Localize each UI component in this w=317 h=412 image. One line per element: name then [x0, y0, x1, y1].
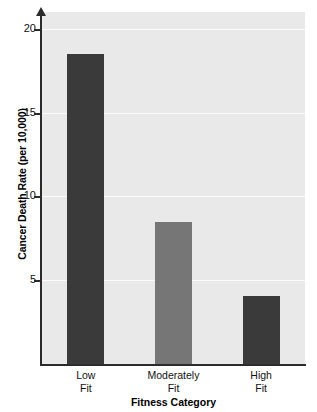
- x-axis-title: Fitness Category: [42, 396, 305, 408]
- x-axis-tick-label-line: Fit: [42, 382, 130, 395]
- x-axis-tick-label-line: Moderately: [130, 369, 218, 382]
- y-axis-arrow-icon: [36, 7, 46, 16]
- x-axis-tick-label-line: Fit: [130, 382, 218, 395]
- gridline: [42, 29, 305, 30]
- bar-chart-figure: 5101520 Cancer Death Rate (per 10,000) L…: [0, 0, 317, 412]
- bar: [155, 222, 192, 364]
- x-axis-tick-label-line: Low: [42, 369, 130, 382]
- y-axis-tick-label: 20: [14, 23, 36, 34]
- bar: [67, 54, 104, 364]
- x-axis-tick-label: ModeratelyFit: [130, 369, 218, 394]
- y-axis-tick-mark: [34, 29, 41, 31]
- bar: [243, 296, 280, 364]
- y-axis-line: [40, 14, 42, 366]
- x-axis-tick-label: HighFit: [217, 369, 305, 394]
- y-axis-tick-mark: [34, 196, 41, 198]
- x-axis-line: [40, 364, 306, 366]
- x-axis-tick-label: LowFit: [42, 369, 130, 394]
- y-axis-tick-mark: [34, 280, 41, 282]
- x-axis-tick-label-line: Fit: [217, 382, 305, 395]
- y-axis-title: Cancer Death Rate (per 10,000): [16, 64, 28, 304]
- plot-area: [42, 12, 305, 364]
- x-axis-tick-label-line: High: [217, 369, 305, 382]
- y-axis-tick-mark: [34, 113, 41, 115]
